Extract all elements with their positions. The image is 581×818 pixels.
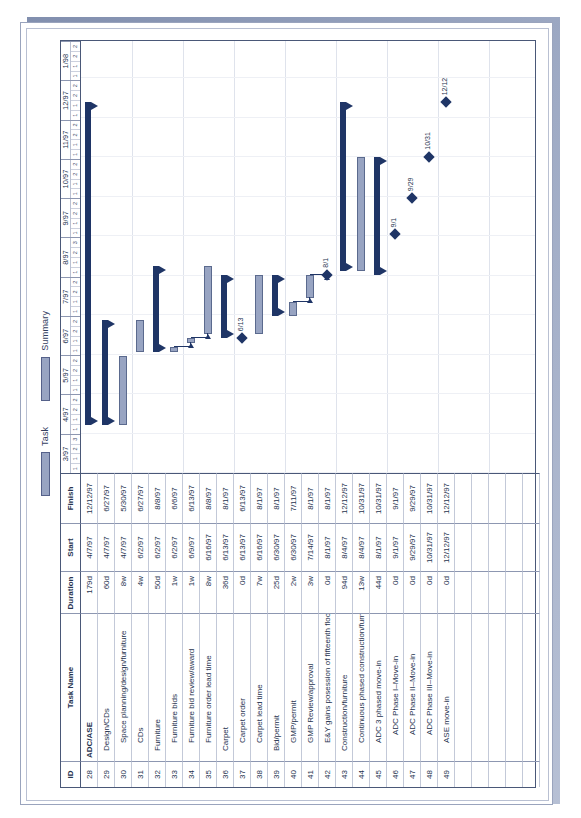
cell-duration: 0d [234, 571, 251, 613]
chart-legend: Task Summary [32, 34, 58, 796]
summary-bar[interactable] [221, 274, 227, 338]
cell-start: 9/1/97 [387, 523, 404, 571]
horizontal-gridline [438, 41, 439, 473]
task-bar-swatch [40, 452, 49, 496]
horizontal-gridline [285, 41, 286, 473]
summary-bar[interactable] [340, 102, 346, 271]
task-bar[interactable] [289, 301, 297, 315]
timeline-month-label: 7/97 [61, 277, 71, 315]
table-row[interactable]: 45ADC 3 phased move-in44d8/1/9710/31/97 [370, 473, 387, 787]
timeline-week-tick: 2 [71, 395, 80, 404]
cell-start: 6/2/97 [166, 523, 183, 571]
task-bar[interactable] [119, 356, 127, 425]
table-row[interactable]: 53 [506, 473, 523, 787]
table-row[interactable]: 33Furniture bids1w6/2/976/6/97 [166, 473, 183, 787]
task-table: ID Task Name Duration Start Finish 28ADC… [61, 473, 535, 787]
timeline-week-row: 1122 [71, 42, 80, 80]
table-row[interactable]: 37Carpet order0d6/13/976/13/97 [234, 473, 251, 787]
task-bar[interactable] [170, 347, 178, 352]
cell-id: 53 [506, 761, 523, 787]
table-row[interactable]: 43Construction/furniture94d8/4/9712/12/9… [336, 473, 353, 787]
task-bar[interactable] [136, 320, 144, 352]
cell-finish: 6/13/97 [234, 473, 251, 523]
cell-start: 7/14/97 [302, 523, 319, 571]
col-header-finish[interactable]: Finish [61, 473, 81, 523]
summary-bar[interactable] [374, 156, 380, 274]
col-header-name[interactable]: Task Name [61, 613, 81, 761]
table-row[interactable]: 51 [472, 473, 489, 787]
dependency-arrow-icon [188, 343, 194, 348]
timeline-week-tick: 1 [71, 306, 80, 316]
cell-duration: 1w [183, 571, 200, 613]
summary-bar[interactable] [272, 274, 278, 315]
cell-finish: 8/8/97 [200, 473, 217, 523]
timeline-week-tick: 2 [71, 443, 80, 453]
timeline-week-tick: 2 [71, 316, 80, 325]
table-row[interactable]: 35Furniture order lead time8w6/16/978/8/… [200, 473, 217, 787]
cell-id: 49 [438, 761, 455, 787]
table-row[interactable]: 34Furniture bid review/award1w6/9/976/13… [183, 473, 200, 787]
timeline-month: 9/971122 [61, 198, 80, 237]
table-row[interactable]: 49ASE move-in0d12/12/9712/12/97 [438, 473, 455, 787]
table-row[interactable]: 44Continuous phased construction/furnitu… [353, 473, 370, 787]
cell-start: 6/16/97 [200, 523, 217, 571]
summary-bar[interactable] [102, 320, 108, 425]
col-header-id[interactable]: ID [61, 761, 81, 787]
table-row[interactable]: 30Space planning/design/furniture8w4/7/9… [115, 473, 132, 787]
summary-bar[interactable] [85, 102, 91, 425]
timeline-week-tick: 1 [71, 149, 80, 159]
timeline-week-tick: 2 [71, 168, 80, 178]
timeline-header: 3/9711234/9711225/9711226/9711227/971122… [61, 41, 81, 473]
table-row[interactable]: 48ADC Phase III–Move-in0d10/31/9710/31/9… [421, 473, 438, 787]
cell-task-name: E&Y gains posession of fifteenth floor [319, 613, 336, 761]
table-row[interactable]: 46ADC Phase I–Move-in0d9/1/979/1/97 [387, 473, 404, 787]
table-row[interactable]: 32Furniture50d6/2/978/8/97 [149, 473, 166, 787]
milestone-marker[interactable] [440, 96, 451, 107]
cell-id: 54 [523, 761, 540, 787]
task-bar[interactable] [357, 156, 365, 270]
vertical-gridline [81, 432, 535, 433]
task-bar[interactable] [306, 274, 314, 297]
timeline-week-tick: 1 [71, 463, 80, 473]
table-row[interactable]: 50 [455, 473, 472, 787]
cell-finish: 6/6/97 [166, 473, 183, 523]
table-row[interactable]: 42E&Y gains posession of fifteenth floor… [319, 473, 336, 787]
cell-task-name: ADC Phase I–Move-in [387, 613, 404, 761]
table-row[interactable]: 47ADC Phase II–Move-in0d9/29/979/29/97 [404, 473, 421, 787]
vertical-gridline [81, 393, 535, 394]
table-row[interactable]: 28ADC/ASE179d4/7/9712/12/97 [81, 473, 98, 787]
cell-id: 30 [115, 761, 132, 787]
timeline-week-tick: 2 [71, 325, 80, 335]
table-row[interactable]: 29Design/CDs60d4/7/976/27/97 [98, 473, 115, 787]
timeline-week-tick: 2 [71, 90, 80, 100]
task-bar[interactable] [255, 274, 263, 334]
vertical-gridline [81, 353, 535, 354]
table-row[interactable]: 36Carpet36d6/13/978/1/97 [217, 473, 234, 787]
table-row[interactable]: 40GMP/permit2w6/30/977/11/97 [285, 473, 302, 787]
timeline-week-tick: 2 [71, 207, 80, 217]
milestone-marker[interactable] [236, 332, 247, 343]
cell-start [489, 523, 506, 571]
timeline-week-tick: 2 [71, 120, 80, 129]
col-header-duration[interactable]: Duration [61, 571, 81, 613]
cell-task-name: CDs [132, 613, 149, 761]
milestone-marker[interactable] [423, 151, 434, 162]
cell-id: 50 [455, 761, 472, 787]
table-row[interactable]: 39Bid/permit25d6/30/978/1/97 [268, 473, 285, 787]
table-row[interactable]: 52 [489, 473, 506, 787]
timeline-month-label: 11/97 [61, 120, 71, 158]
legend-item-summary: Summary [40, 310, 50, 400]
cell-id: 33 [166, 761, 183, 787]
milestone-marker[interactable] [389, 228, 400, 239]
milestone-marker[interactable] [406, 192, 417, 203]
cell-id: 34 [183, 761, 200, 787]
gantt-timeline-pane: 3/9711234/9711225/9711226/9711227/971122… [61, 41, 535, 473]
table-row[interactable]: 41GMP Review/approval3w7/14/978/1/97 [302, 473, 319, 787]
col-header-start[interactable]: Start [61, 523, 81, 571]
summary-bar[interactable] [153, 265, 159, 352]
table-row[interactable]: 54 [523, 473, 540, 787]
task-bar[interactable] [204, 265, 212, 334]
timeline-month-label: 4/97 [61, 395, 71, 433]
table-row[interactable]: 38Carpet lead time7w6/16/978/1/97 [251, 473, 268, 787]
table-row[interactable]: 31CDs4w6/2/976/27/97 [132, 473, 149, 787]
